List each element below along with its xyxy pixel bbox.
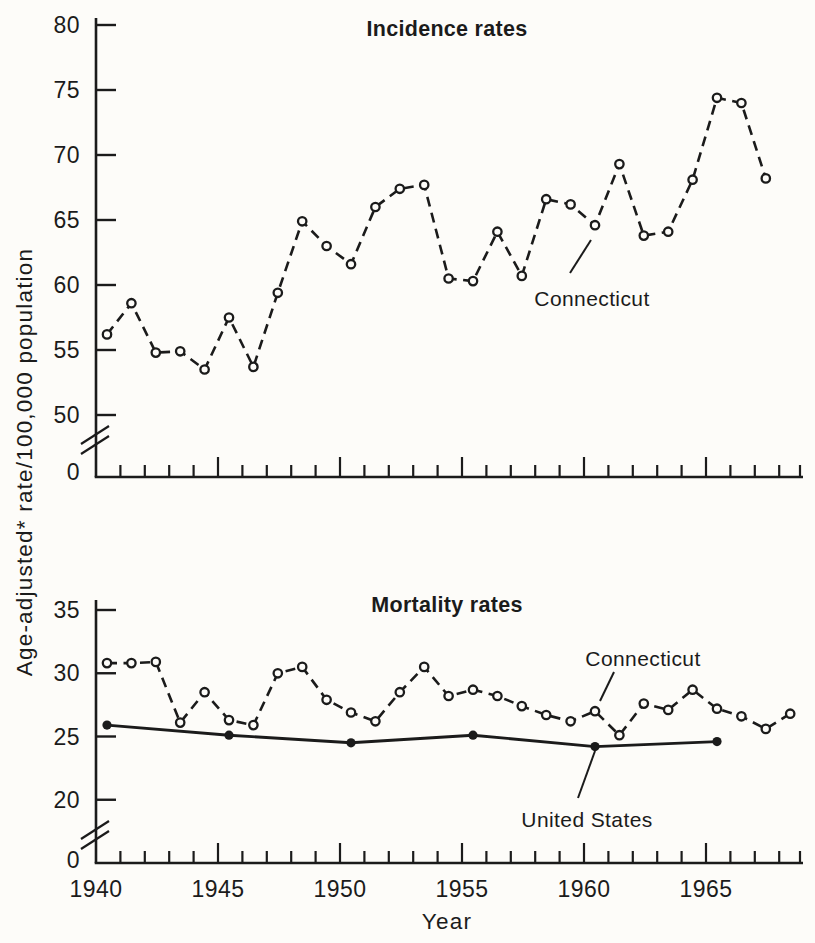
incidence-rates-connecticut-point: [542, 195, 550, 203]
mortality-rates-connecticut-point: [664, 706, 672, 714]
incidence-rates-connecticut-point: [566, 200, 574, 208]
figure-page: 5055606570758002025303501940194519501955…: [0, 0, 815, 943]
incidence-rates-connecticut-point: [200, 365, 208, 373]
mortality-rates-united-states-point: [224, 731, 233, 740]
mortality-rates-connecticut-point: [615, 731, 623, 739]
mortality-rates-connecticut-point: [200, 688, 208, 696]
incidence-rates-connecticut-point: [176, 347, 184, 355]
incidence-rates-connecticut-point: [469, 277, 477, 285]
incidence-rates-connecticut-point: [664, 228, 672, 236]
y-axis-label: Age-adjusted* rate/100,000 population: [12, 248, 37, 676]
incidence-connecticut-label: Connecticut: [534, 287, 649, 310]
incidence-rates-y-tick-label-zero: 0: [67, 459, 80, 485]
mortality-rates-connecticut-point: [249, 721, 257, 729]
incidence-rates-connecticut-point: [274, 289, 282, 297]
mortality-rates-connecticut-point: [152, 658, 160, 666]
incidence-rates-y-tick-label: 50: [53, 402, 80, 428]
incidence-rates-y-tick-label: 80: [53, 12, 80, 38]
mortality-rates-connecticut-point: [640, 699, 648, 707]
mortality-chart-title: Mortality rates: [371, 593, 522, 617]
chart-generated-layer: 5055606570758002025303501940194519501955…: [53, 12, 803, 902]
x-tick-label: 1945: [191, 876, 244, 902]
mortality-rates-connecticut-point: [518, 702, 526, 710]
incidence-rates-connecticut-point: [444, 274, 452, 282]
mortality-rates-connecticut-point: [566, 717, 574, 725]
incidence-chart-title: Incidence rates: [366, 17, 527, 41]
incidence-rates-connecticut-point: [249, 363, 257, 371]
mortality-rates-united-states-point: [590, 742, 599, 751]
incidence-rates-connecticut-point: [103, 330, 111, 338]
mortality-rates-y-tick-label: 20: [53, 787, 80, 813]
incidence-rates-connecticut-point: [640, 231, 648, 239]
incidence-rates-connecticut-point: [737, 99, 745, 107]
x-tick-label: 1940: [69, 876, 122, 902]
mortality-rates-united-states-point: [712, 737, 721, 746]
mortality-rates-connecticut-point: [591, 707, 599, 715]
incidence-rates-connecticut-point: [298, 217, 306, 225]
incidence-rates-y-tick-label: 75: [53, 77, 80, 103]
incidence-rates-connecticut-point: [615, 160, 623, 168]
incidence-rates-y-tick-label: 60: [53, 272, 80, 298]
mortality-rates-connecticut-point: [786, 710, 794, 718]
mortality-rates-connecticut-point: [127, 659, 135, 667]
mortality-rates-connecticut-point: [493, 692, 501, 700]
x-axis-label: Year: [422, 909, 472, 934]
mortality-rates-connecticut-point: [396, 688, 404, 696]
mortality-rates-y-tick-label-zero: 0: [67, 847, 80, 873]
mortality-rates-connecticut-point: [420, 663, 428, 671]
incidence-rates-connecticut-point: [762, 174, 770, 182]
incidence-rates-connecticut-point: [322, 242, 330, 250]
incidence-rates-y-tick-label: 70: [53, 142, 80, 168]
mortality-rates-y-tick-label: 35: [53, 597, 80, 623]
mortality-rates-united-states-point: [346, 738, 355, 747]
incidence-rates-connecticut-point: [420, 181, 428, 189]
incidence-rates-connecticut-point: [591, 221, 599, 229]
mortality-rates-connecticut-point: [225, 716, 233, 724]
mortality-rates-connecticut-point: [688, 686, 696, 694]
mortality-rates-connecticut-point: [322, 696, 330, 704]
incidence-rates-connecticut-point: [347, 260, 355, 268]
mortality-rates-connecticut-point: [176, 718, 184, 726]
mortality-connecticut-pointer-line: [600, 672, 614, 701]
mortality-rates-y-tick-label: 30: [53, 660, 80, 686]
incidence-rates-y-tick-label: 65: [53, 207, 80, 233]
mortality-rates-connecticut-point: [542, 711, 550, 719]
mortality-rates-y-tick-label: 25: [53, 724, 80, 750]
mortality-rates-connecticut-point: [103, 659, 111, 667]
incidence-rates-connecticut-point: [688, 176, 696, 184]
x-tick-label: 1960: [557, 876, 610, 902]
x-tick-label: 1955: [435, 876, 488, 902]
mortality-rates-connecticut-point: [347, 708, 355, 716]
mortality-rates-united-states-point: [468, 731, 477, 740]
incidence-rates-y-tick-label: 55: [53, 337, 80, 363]
mortality-rates-connecticut-point: [713, 705, 721, 713]
incidence-rates-connecticut-point: [396, 185, 404, 193]
mortality-rates-connecticut-point: [274, 669, 282, 677]
incidence-rates-connecticut-point: [493, 228, 501, 236]
incidence-mortality-dual-line-chart: 5055606570758002025303501940194519501955…: [0, 0, 815, 943]
united-states-pointer-line: [578, 751, 595, 798]
incidence-rates-connecticut-point: [152, 348, 160, 356]
mortality-rates-connecticut-point: [444, 692, 452, 700]
x-tick-label: 1950: [313, 876, 366, 902]
incidence-connecticut-pointer-line: [570, 240, 591, 273]
mortality-rates-connecticut-point: [469, 686, 477, 694]
mortality-rates-connecticut-point: [762, 725, 770, 733]
mortality-rates-united-states-point: [102, 721, 111, 730]
incidence-rates-connecticut-point: [371, 203, 379, 211]
mortality-rates-connecticut-point: [298, 663, 306, 671]
united-states-label: United States: [521, 808, 652, 831]
incidence-rates-connecticut-point: [127, 299, 135, 307]
mortality-rates-connecticut-point: [737, 712, 745, 720]
x-tick-label: 1965: [679, 876, 732, 902]
incidence-rates-connecticut-point: [518, 272, 526, 280]
mortality-connecticut-label: Connecticut: [585, 647, 700, 670]
incidence-rates-connecticut-point: [713, 94, 721, 102]
mortality-rates-connecticut-point: [371, 717, 379, 725]
incidence-rates-connecticut-point: [225, 313, 233, 321]
